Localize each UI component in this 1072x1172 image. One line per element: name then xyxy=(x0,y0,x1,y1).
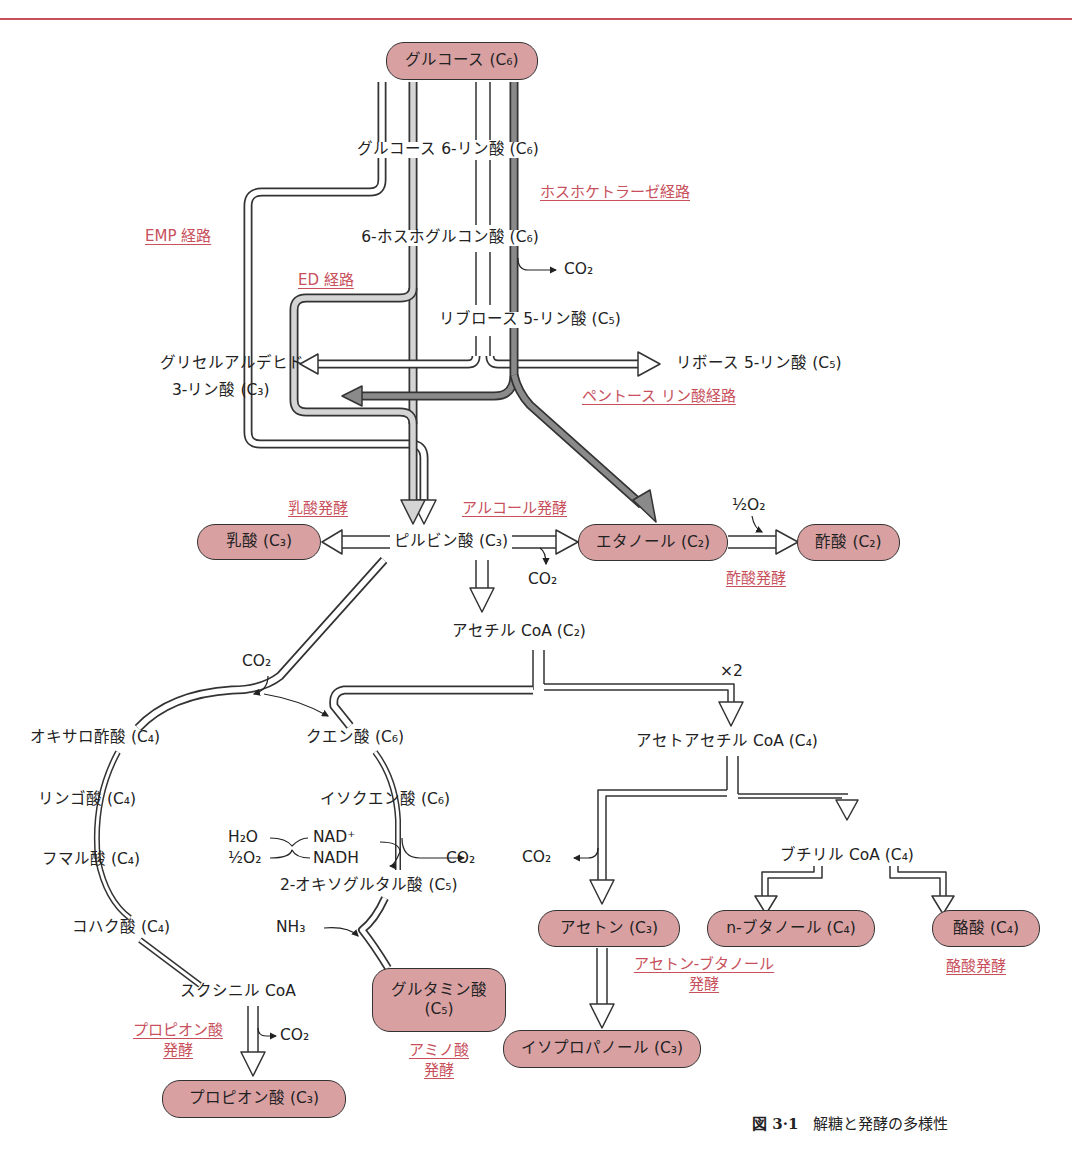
label-ribulose5p: リブロース 5-リン酸 (C₅) xyxy=(437,312,622,328)
label-ga3p-line1: グリセルアルデヒド xyxy=(160,356,304,372)
node-isopropanol: イソプロパノール (C₃) xyxy=(503,1030,701,1068)
label-citrate: クエン酸 (C₆) xyxy=(306,730,404,746)
label-half-o2-acetic: ½O₂ xyxy=(732,498,765,514)
pathway-amino-acid: アミノ酸 発酵 xyxy=(409,1040,469,1081)
label-ga3p-line2: 3-リン酸 (C₃) xyxy=(172,383,270,399)
label-acetyl-coa: アセチル CoA (C₂) xyxy=(452,624,586,640)
node-acetone: アセトン (C₃) xyxy=(538,910,680,947)
pathway-acetone-butanol: アセトン-ブタノール 発酵 xyxy=(634,954,774,995)
node-acetate: 酢酸 (C₂) xyxy=(797,524,900,561)
caption-number: 図 3·1 xyxy=(752,1115,798,1133)
pathway-emp: EMP 経路 xyxy=(145,226,211,246)
label-pyruvate: ピルビン酸 (C₃) xyxy=(394,534,508,550)
label-h2o: H₂O xyxy=(228,830,258,846)
pathway-acetic: 酢酸発酵 xyxy=(726,568,786,588)
label-oxoglutarate: 2-オキソグルタル酸 (C₅) xyxy=(280,878,458,894)
node-ethanol: エタノール (C₂) xyxy=(578,524,728,561)
acetone-butanol-line2: 発酵 xyxy=(634,974,774,994)
amino-acid-line1: アミノ酸 xyxy=(409,1040,469,1060)
label-co2-pyruvate: CO₂ xyxy=(528,572,557,588)
label-ribose5p: リボース 5-リン酸 (C₅) xyxy=(676,356,841,372)
pathway-lactic: 乳酸発酵 xyxy=(288,498,348,518)
label-malate: リンゴ酸 (C₄) xyxy=(38,792,136,808)
label-nh3: NH₃ xyxy=(276,920,305,936)
label-phosphogluconate: 6-ホスホグルコン酸 (C₆) xyxy=(359,230,541,246)
node-glucose: グルコース (C₆) xyxy=(386,42,538,80)
label-co2-oxaloacetate: CO₂ xyxy=(242,654,271,670)
pathway-phosphoketolase: ホスホケトラーゼ経路 xyxy=(540,182,690,202)
label-succinate: コハク酸 (C₄) xyxy=(72,920,170,936)
label-co2-succinyl: CO₂ xyxy=(280,1028,309,1044)
node-lactate: 乳酸 (C₃) xyxy=(197,524,321,560)
label-butyryl-coa: ブチリル CoA (C₄) xyxy=(780,848,914,864)
label-nad-plus: NAD⁺ xyxy=(313,830,355,846)
pathway-alcoholic: アルコール発酵 xyxy=(462,498,567,518)
label-acetoacetyl-coa: アセトアセチル CoA (C₄) xyxy=(636,734,818,750)
label-co2-pentose: CO₂ xyxy=(564,262,593,278)
amino-acid-line2: 発酵 xyxy=(409,1060,469,1080)
label-fumarate: フマル酸 (C₄) xyxy=(42,852,140,868)
propionic-line2: 発酵 xyxy=(133,1040,223,1060)
node-n-butanol: n-ブタノール (C₄) xyxy=(707,910,875,947)
pathway-propionic: プロピオン酸 発酵 xyxy=(133,1020,223,1061)
node-glutamate: グルタミン酸 (C₅) xyxy=(372,968,506,1032)
pathway-pentose-phosphate: ペントース リン酸経路 xyxy=(582,386,736,406)
label-oxaloacetate: オキサロ酢酸 (C₄) xyxy=(30,730,160,746)
label-half-o2: ½O₂ xyxy=(228,851,261,867)
pathway-ed: ED 経路 xyxy=(298,270,354,290)
caption-title: 解糖と発酵の多様性 xyxy=(813,1115,948,1133)
figure-caption: 図 3·1 解糖と発酵の多様性 xyxy=(752,1112,948,1133)
glutamate-line1: グルタミン酸 xyxy=(391,981,487,1000)
propionic-line1: プロピオン酸 xyxy=(133,1020,223,1040)
node-propionate: プロピオン酸 (C₃) xyxy=(162,1080,346,1118)
glutamate-line2: (C₅) xyxy=(424,1000,453,1019)
label-co2-acetone: CO₂ xyxy=(522,850,551,866)
label-nadh: NADH xyxy=(313,851,359,867)
label-co2-isocitrate: CO₂ xyxy=(446,851,475,867)
label-times2: ×2 xyxy=(720,664,743,680)
label-g6p: グルコース 6-リン酸 (C₆) xyxy=(355,142,540,158)
label-succinyl-coa: スクシニル CoA xyxy=(180,984,296,1000)
node-butyrate: 酪酸 (C₄) xyxy=(932,910,1040,947)
acetone-butanol-line1: アセトン-ブタノール xyxy=(634,954,774,974)
label-isocitrate: イソクエン酸 (C₆) xyxy=(320,792,450,808)
pathway-butyric: 酪酸発酵 xyxy=(946,956,1006,976)
